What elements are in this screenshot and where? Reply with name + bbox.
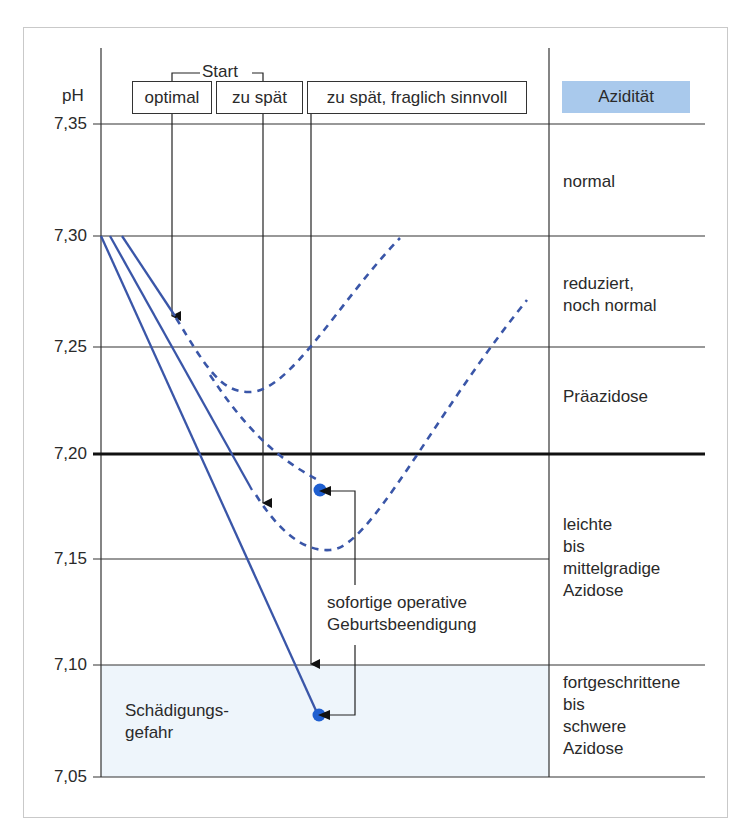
y-tick-7-30: 7,30 xyxy=(27,226,87,246)
acidity-header: Azidität xyxy=(562,81,690,113)
curve-late-recovery xyxy=(256,300,527,550)
y-tick-7-10: 7,10 xyxy=(27,655,87,675)
box-late: zu spät xyxy=(216,81,303,114)
marker-intervention-late xyxy=(314,484,327,497)
curve-late-dashed xyxy=(210,375,318,480)
box-late-questionable: zu spät, fraglich sinnvoll xyxy=(307,81,527,114)
start-label: Start xyxy=(202,62,238,82)
y-tick-7-25: 7,25 xyxy=(27,337,87,357)
y-tick-7-20: 7,20 xyxy=(27,444,87,464)
y-tick-7-05: 7,05 xyxy=(27,767,87,787)
y-tick-7-35: 7,35 xyxy=(27,114,87,134)
zone-preacidosis: Präazidose xyxy=(563,386,648,408)
curve-optimal-recovery xyxy=(176,238,400,392)
y-tick-7-15: 7,15 xyxy=(27,549,87,569)
curve-late-solid xyxy=(110,236,252,490)
zone-normal: normal xyxy=(563,171,615,193)
zone-reduced: reduziert,noch normal xyxy=(563,273,657,317)
y-axis-title: pH xyxy=(62,86,84,106)
recovery-curves xyxy=(176,238,527,550)
annotation-immediate-delivery: sofortige operativeGeburtsbeendigung xyxy=(327,592,476,636)
curve-late-questionable-solid xyxy=(101,236,318,715)
danger-label: Schädigungs-gefahr xyxy=(125,700,229,744)
box-optimal: optimal xyxy=(132,81,212,114)
zone-severe-acidosis: fortgeschrittenebis schwereAzidose xyxy=(563,672,680,760)
zone-mild-acidosis: leichtebis mittelgradigeAzidose xyxy=(563,514,660,602)
annotation-connector-upper xyxy=(330,491,355,585)
ph-curves xyxy=(101,236,318,715)
marker-intervention-too-late xyxy=(313,709,326,722)
